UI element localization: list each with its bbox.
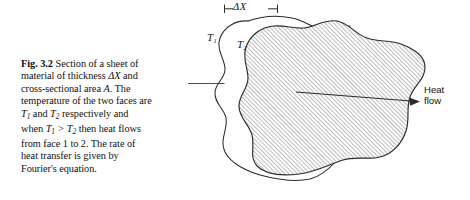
back-face-temperature-label: T₂ [237, 38, 247, 50]
caption-line-2-suffix: and [121, 70, 138, 81]
caption-delta-x: ΔX [108, 70, 120, 81]
caption-line-7: from face 1 to 2. The rate of [21, 138, 173, 150]
caption-line-4: temperature of the two faces are [21, 95, 173, 107]
caption-line-3-suffix: . The [110, 83, 131, 94]
caption-t1-subscript-2: 1 [51, 126, 55, 135]
caption-line-1-text: Section of a sheet of [55, 58, 138, 69]
heat-flow-line-1: Heat [424, 85, 444, 96]
caption-line-2-prefix: material of thickness [21, 70, 108, 81]
caption-line-5-suffix: respectively and [59, 108, 128, 119]
caption-line-6-suffix: then heat flows [76, 123, 141, 134]
caption-line-9: Fourier's equation. [21, 163, 173, 175]
caption-line-5: T1 and T2 respectively and [21, 108, 173, 123]
caption-line-1: Fig. 3.2 Section of a sheet of [21, 58, 173, 70]
front-face-temperature-label: T₁ [207, 31, 217, 43]
figure-3-2: ΔX T₁ T₂ Heat flow Fig. 3.2 Section of a… [0, 0, 470, 200]
back-face-temperature-text: T₂ [237, 38, 247, 50]
caption-line-3-prefix: cross-sectional area [21, 83, 103, 94]
caption-line-6: when T1 > T2 then heat flows [21, 123, 173, 138]
caption-greater-than: > [58, 123, 65, 134]
thickness-label: ΔX [233, 1, 247, 12]
caption-line-3: cross-sectional area A. The [21, 83, 173, 95]
front-face-temperature-text: T₁ [207, 31, 217, 43]
figure-caption: Fig. 3.2 Section of a sheet of material … [21, 58, 173, 175]
caption-line-6-prefix: when [21, 123, 46, 134]
caption-line-2: material of thickness ΔX and [21, 70, 173, 82]
caption-line-8: heat transfer is given by [21, 150, 173, 162]
caption-line-5-mid: and [30, 108, 50, 119]
figure-number: Fig. 3.2 [21, 58, 53, 69]
heat-flow-label: Heat flow [424, 85, 444, 106]
back-face-hatched [239, 21, 425, 175]
thickness-label-text: ΔX [233, 1, 247, 12]
heat-flow-line-2: flow [424, 96, 444, 107]
